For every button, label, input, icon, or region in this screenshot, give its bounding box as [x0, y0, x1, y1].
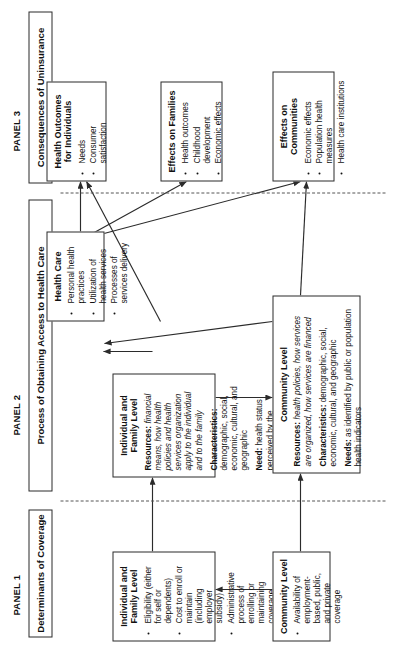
list-item: Childhood development	[192, 88, 212, 163]
panel-3-title: PANEL 3	[10, 110, 21, 151]
figure-stage: PANEL 1 PANEL 2 PANEL 3 Determinants of …	[0, 0, 395, 651]
panel2-community-characteristics: Characteristics: demographic, social, ec…	[318, 302, 338, 466]
panel2-community-resources: Resources: health policies, how services…	[292, 302, 312, 466]
panel3-families-title: Effects on Families	[166, 88, 176, 174]
panel3-health-outcomes-box: Health Outcomes for Individuals Needs Co…	[46, 81, 106, 181]
list-item: Health care institutions	[336, 78, 346, 163]
panel2-individual-resources: Resources: financial means, how health p…	[143, 380, 204, 470]
panel1-individual-title: Individual and Family Level	[118, 558, 139, 634]
list-item: Economic effects	[213, 88, 223, 163]
panel3-health-outcomes-title: Health Outcomes for Individuals	[52, 88, 73, 174]
panel2-community-needs: Needs: as identified by public or popula…	[343, 302, 363, 466]
panel2-community-title: Community Level	[278, 302, 288, 466]
panel1-individual-family-box: Individual and Family Level Eligibility …	[112, 551, 215, 641]
characteristics-text: demographic, social, economic, cultural,…	[219, 386, 248, 470]
list-item: Needs	[77, 88, 87, 163]
diagram-canvas: PANEL 1 PANEL 2 PANEL 3 Determinants of …	[0, 0, 395, 651]
divider-panel1-panel2	[60, 500, 385, 501]
list-item: Health outcomes	[180, 88, 190, 163]
divider-panel2-panel3	[60, 192, 385, 193]
panel3-effects-communities-box: Effects on Communities Economic effects …	[272, 71, 334, 181]
panel2-healthcare-bullets: Personal health practices Utilization of…	[66, 238, 129, 314]
panel-2-title: PANEL 2	[10, 394, 21, 435]
panel1-community-title: Community Level	[278, 558, 288, 634]
need-label: Need:	[254, 447, 263, 470]
panel2-community-box: Community Level Resources: health polici…	[272, 295, 360, 473]
panel1-community-bullets: Availability of employment-based, public…	[292, 558, 342, 634]
characteristics-label: Characteristics:	[318, 404, 327, 466]
panel3-communities-bullets: Economic effects Population health measu…	[303, 78, 346, 174]
list-item: Processes of services delivery	[109, 238, 129, 303]
list-item: Consumer satisfaction	[88, 88, 108, 163]
panel3-health-outcomes-bullets: Needs Consumer satisfaction	[77, 88, 109, 174]
list-item: Economic effects	[303, 78, 313, 163]
list-item: Utilization of health services	[88, 238, 108, 303]
panel1-community-box: Community Level Availability of employme…	[272, 551, 330, 641]
panel2-individual-title: Individual and Family Level	[118, 380, 139, 470]
panel2-healthcare-title: Health Care	[52, 238, 62, 314]
panel2-health-care-box: Health Care Personal health practices Ut…	[46, 231, 104, 321]
panel-1-title: PANEL 1	[10, 574, 21, 615]
resources-label: Resources:	[143, 425, 152, 470]
list-item: Personal health practices	[66, 238, 86, 303]
list-item: Cost to enroll or maintain (including em…	[174, 558, 224, 623]
resources-label: Resources:	[292, 421, 301, 466]
panel2-individual-family-box: Individual and Family Level Resources: f…	[112, 373, 215, 477]
panel3-communities-title: Effects on Communities	[278, 78, 299, 174]
panel2-individual-characteristics: Characteristics: demographic, social, ec…	[209, 380, 250, 470]
panel3-effects-families-box: Effects on Families Health outcomes Chil…	[160, 81, 222, 181]
panel3-families-bullets: Health outcomes Childhood development Ec…	[180, 88, 223, 174]
list-item: Eligibility (either for self or dependen…	[143, 558, 173, 623]
panel-1-header: Determinants of Coverage	[28, 509, 52, 637]
needs-label: Needs:	[343, 439, 352, 466]
list-item: Administrative process of enrolling or m…	[226, 558, 276, 623]
list-item: Availability of employment-based, public…	[292, 558, 342, 623]
characteristics-label: Characteristics:	[209, 408, 218, 470]
list-item: Population health measures	[314, 78, 334, 163]
